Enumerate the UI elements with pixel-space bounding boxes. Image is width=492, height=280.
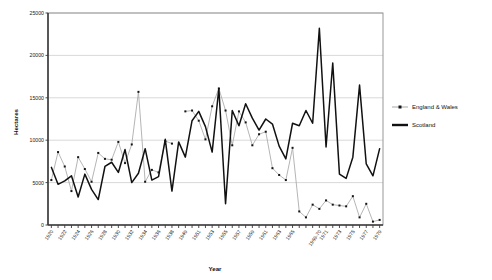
y-tick-label: 5000 <box>32 180 44 186</box>
data-point-marker <box>204 138 206 140</box>
line-chart: 0500010000150002000025000 19201922192419… <box>0 0 492 280</box>
legend-label-england-wales: England & Wales <box>412 104 458 110</box>
x-tick-label: 1924 <box>70 228 81 241</box>
data-point-marker <box>91 181 93 183</box>
data-point-marker <box>238 110 240 112</box>
x-tick-label: 1951 <box>190 228 201 241</box>
legend-label-scotland: Scotland <box>412 122 435 128</box>
data-point-marker <box>332 204 334 206</box>
chart-container: 0500010000150002000025000 19201922192419… <box>0 0 492 280</box>
x-tick-label: 1961 <box>257 228 268 241</box>
data-point-marker <box>265 131 267 133</box>
data-point-marker <box>365 203 367 205</box>
data-point-marker <box>198 120 200 122</box>
data-point-marker <box>50 179 52 181</box>
data-point-marker <box>184 110 186 112</box>
legend-marker-england-wales <box>399 106 402 109</box>
data-point-marker <box>104 158 106 160</box>
data-point-marker <box>225 110 227 112</box>
x-tick-label: 1928 <box>97 228 108 241</box>
data-point-marker <box>271 167 273 169</box>
data-point-marker <box>359 216 361 218</box>
data-point-marker <box>171 143 173 145</box>
data-point-marker <box>345 205 347 207</box>
data-point-marker <box>318 208 320 210</box>
data-point-marker <box>285 179 287 181</box>
data-point-marker <box>231 144 233 146</box>
y-tick-label: 25000 <box>30 10 45 16</box>
data-point-marker <box>372 221 374 223</box>
data-point-marker <box>211 105 213 107</box>
series-line-scotland <box>51 28 379 204</box>
x-tick-label: 1955 <box>217 228 228 241</box>
data-point-marker <box>245 121 247 123</box>
y-tick-label: 10000 <box>30 137 45 143</box>
y-tick-label: 15000 <box>30 95 45 101</box>
x-tick-label: 1930 <box>110 228 121 241</box>
x-tick-label: 1975 <box>345 228 356 241</box>
data-point-marker <box>84 168 86 170</box>
x-tick-label: 1957 <box>231 228 242 241</box>
data-point-marker <box>379 219 381 221</box>
data-point-marker <box>191 110 193 112</box>
y-tick-label: 20000 <box>30 52 45 58</box>
series-line-england-wales <box>51 88 379 221</box>
data-point-marker <box>70 190 72 192</box>
x-axis-ticks: 1920192219241926192819301932193419361938… <box>43 225 383 247</box>
data-point-marker <box>151 169 153 171</box>
data-point-marker <box>305 216 307 218</box>
x-tick-label: 1953 <box>204 228 215 241</box>
data-point-marker <box>144 181 146 183</box>
x-tick-label: 1949 <box>177 228 188 241</box>
data-point-marker <box>258 133 260 135</box>
y-axis-ticks: 0500010000150002000025000 <box>30 10 48 228</box>
data-point-marker <box>77 156 79 158</box>
data-point-marker <box>124 162 126 164</box>
series-markers-england-wales <box>50 87 380 222</box>
y-tick-label: 0 <box>41 222 44 228</box>
data-point-marker <box>111 159 113 161</box>
data-point-marker <box>325 199 327 201</box>
data-point-marker <box>97 152 99 154</box>
x-tick-label: 1920 <box>43 228 54 241</box>
data-point-marker <box>57 151 59 153</box>
data-point-marker <box>338 205 340 207</box>
x-tick-label: 1934 <box>137 228 148 241</box>
data-point-marker <box>278 174 280 176</box>
x-tick-label: 1973 <box>331 228 342 241</box>
x-tick-label: 1932 <box>123 228 134 241</box>
y-axis-title: Hectares <box>12 108 19 135</box>
x-tick-label: 1965 <box>284 228 295 241</box>
x-tick-label: 1979 <box>371 228 382 241</box>
x-tick-label: 1959 <box>244 228 255 241</box>
data-point-marker <box>352 195 354 197</box>
data-point-marker <box>64 165 66 167</box>
x-axis-title: Year <box>208 265 222 272</box>
data-point-marker <box>131 143 133 145</box>
data-point-marker <box>117 141 119 143</box>
data-point-marker <box>137 91 139 93</box>
data-point-marker <box>251 144 253 146</box>
x-tick-label: 1936 <box>150 228 161 241</box>
x-tick-label: 1938 <box>164 228 175 241</box>
x-tick-label: 1922 <box>56 228 67 241</box>
data-point-marker <box>292 147 294 149</box>
data-point-marker <box>298 210 300 212</box>
x-tick-label: 1926 <box>83 228 94 241</box>
data-point-marker <box>312 204 314 206</box>
legend: England & Wales Scotland <box>392 104 458 128</box>
x-tick-label: 1977 <box>358 228 369 241</box>
x-tick-label: 1963 <box>271 228 282 241</box>
